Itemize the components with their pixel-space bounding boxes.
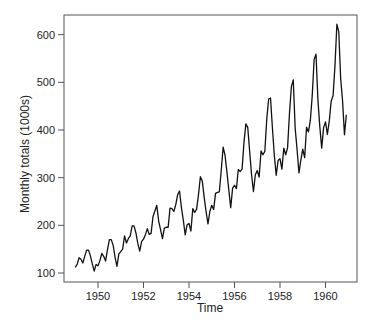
y-tick-label: 300 [37, 172, 55, 184]
y-tick-label: 600 [37, 29, 55, 41]
x-axis: 195019521954195619581960 [86, 282, 338, 302]
y-axis: 100200300400500600 [37, 29, 64, 279]
line-chart: 100200300400500600 195019521954195619581… [0, 0, 379, 327]
x-tick-label: 1956 [222, 290, 246, 302]
y-tick-label: 200 [37, 219, 55, 231]
series-line [75, 24, 346, 271]
x-tick-label: 1952 [131, 290, 155, 302]
y-tick-label: 500 [37, 76, 55, 88]
plot-frame [64, 15, 357, 282]
x-tick-label: 1960 [313, 290, 337, 302]
y-tick-label: 400 [37, 124, 55, 136]
y-axis-title: Monthly totals (1000s) [18, 95, 32, 213]
x-tick-label: 1950 [86, 290, 110, 302]
y-tick-label: 100 [37, 267, 55, 279]
x-tick-label: 1958 [268, 290, 292, 302]
x-axis-title: Time [197, 301, 224, 315]
